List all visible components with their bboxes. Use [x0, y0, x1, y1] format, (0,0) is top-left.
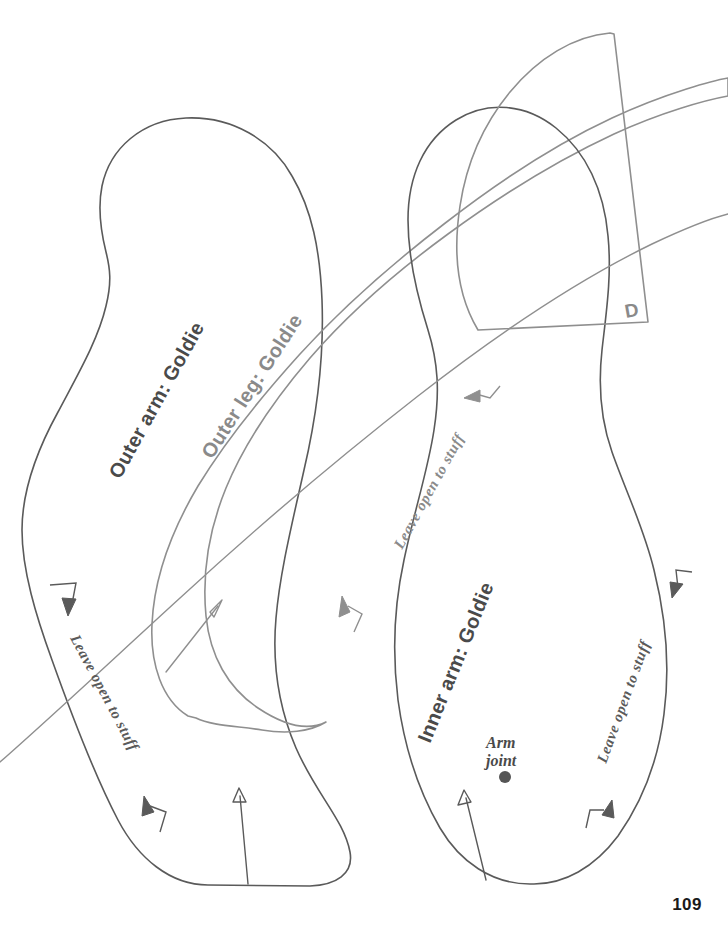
grain-line-outer-leg[interactable]	[166, 600, 222, 672]
annotation-leave-open-diagonal: Leave open to stuff	[390, 430, 468, 553]
piece-outline-d-flap[interactable]	[457, 33, 648, 330]
piece-outline-outer-arm[interactable]	[22, 118, 351, 886]
label-outer-leg: Outer leg: Goldie	[197, 310, 307, 462]
arm-joint-dot[interactable]	[499, 771, 511, 783]
pattern-page: Outer arm: Goldie Outer leg: Goldie Inne…	[0, 0, 728, 949]
label-inner-arm: Inner arm: Goldie	[413, 579, 497, 746]
notch-inner-arm-bottom[interactable]	[586, 800, 614, 828]
arm-joint-label-line2: joint	[483, 752, 517, 770]
annotation-leave-open-inner-arm: Leave open to stuff	[593, 637, 653, 766]
pattern-drawing-canvas: Outer arm: Goldie Outer leg: Goldie Inne…	[0, 0, 728, 949]
label-outer-arm: Outer arm: Goldie	[104, 318, 208, 482]
annotation-leave-open-outer-arm: Leave open to stuff	[67, 631, 143, 755]
arm-joint-label-line1: Arm	[485, 734, 515, 751]
notch-outer-arm-top[interactable]	[50, 583, 76, 616]
notch-outer-arm-bottom[interactable]	[142, 796, 166, 832]
notch-diagonal-top[interactable]	[464, 386, 500, 402]
grain-line-outer-arm[interactable]	[233, 788, 248, 884]
diagonal-cut-line[interactable]	[0, 214, 728, 762]
notch-inner-arm-top[interactable]	[670, 570, 692, 598]
notch-outer-leg-mid[interactable]	[339, 596, 362, 632]
label-d-flap: D	[623, 299, 640, 322]
page-number: 109	[672, 895, 702, 915]
grain-line-inner-arm[interactable]	[458, 790, 486, 880]
